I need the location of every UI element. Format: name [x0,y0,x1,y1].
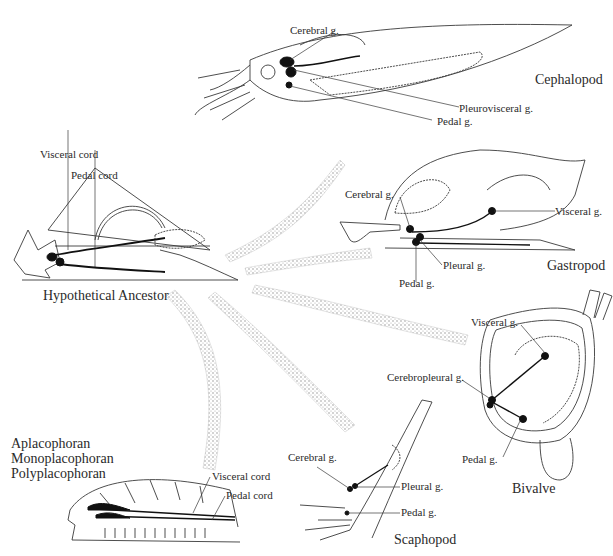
arrow-to-bivalve [252,285,468,345]
scaphopod-drawing [300,400,432,540]
label-ancestor-pedal-cord: Pedal cord [71,170,118,181]
bivalve-nerves [487,353,549,423]
placophoran-drawing [68,480,240,542]
molluscan-nervous-system-diagram: Visceral cord Pedal cord Hypothetical An… [0,0,613,556]
label-placophoran-visceral-cord: Visceral cord [212,471,270,482]
label-scaphopod-pedal-g: Pedal g. [401,507,436,518]
evolution-arrows [166,160,468,470]
title-scaphopod: Scaphopod [394,533,456,547]
label-cephalopod-pleurovisceral-g: Pleurovisceral g. [459,103,533,114]
label-bivalve-pedal-g: Pedal g. [462,454,497,465]
label-scaphopod-pleural-g: Pleural g. [401,481,443,492]
title-hypothetical-ancestor: Hypothetical Ancestor [43,289,169,303]
arrow-to-gastropod [245,248,372,275]
scaphopod-leader-lines [317,467,400,513]
gastropod-drawing [340,150,585,250]
cephalopod-leader-lines [290,31,459,120]
label-gastropod-visceral-g: Visceral g. [555,206,602,217]
title-gastropod: Gastropod [547,259,605,273]
label-bivalve-cerebropleural-g: Cerebropleural g. [387,372,464,383]
label-gastropod-cerebral-g: Cerebral g. [345,189,394,200]
ancestor-nerves [47,238,165,272]
label-cephalopod-pedal-g: Pedal g. [437,116,472,127]
title-cephalopod: Cephalopod [535,73,603,87]
label-bivalve-visceral-g: Visceral g. [471,317,518,328]
arrow-to-placophoran [166,290,221,470]
label-scaphopod-cerebral-g: Cerebral g. [288,452,337,463]
label-ancestor-visceral-cord: Visceral cord [40,149,98,160]
label-gastropod-pedal-g: Pedal g. [399,278,434,289]
arrow-to-cephalopod [225,160,345,262]
label-cephalopod-cerebral-g: Cerebral g. [290,25,339,36]
title-aplacophoran: Aplacophoran [11,437,90,451]
label-gastropod-pleural-g: Pleural g. [443,260,485,271]
title-bivalve: Bivalve [512,482,556,496]
title-monoplacophoran: Monoplacophoran [11,452,114,466]
scaphopod-nerves [345,465,388,515]
label-placophoran-pedal-cord: Pedal cord [226,490,273,501]
title-polyplacophoran: Polyplacophoran [11,467,106,481]
cephalopod-nerves [280,56,360,88]
